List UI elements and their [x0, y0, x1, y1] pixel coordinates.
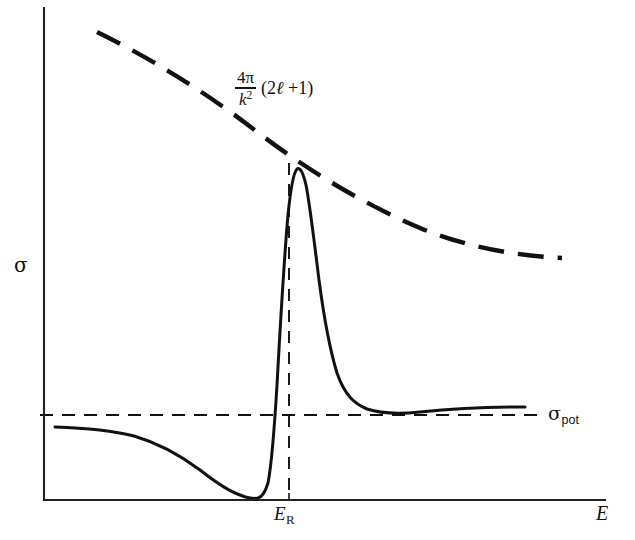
- sigma-pot-base: σ: [548, 402, 561, 424]
- unitarity-denominator: k2: [237, 89, 254, 108]
- resonance-label-base: E: [274, 503, 286, 524]
- sigma-pot-label: σpot: [548, 404, 579, 426]
- sigma-pot-subscript: pot: [561, 413, 578, 427]
- unitarity-fraction: 4π k2: [235, 69, 256, 108]
- unitarity-limit-curve: [97, 32, 562, 258]
- x-tick-label-resonance-energy: ER: [274, 504, 295, 526]
- plot-canvas: [0, 0, 635, 540]
- degeneracy-close: +1): [288, 78, 313, 98]
- unitarity-degeneracy-factor: (2ℓ +1): [261, 79, 313, 97]
- y-axis-label: σ: [14, 255, 28, 275]
- resonance-cross-section-figure: σ E ER σpot 4π k2 (2ℓ +1): [0, 0, 635, 540]
- unitarity-limit-label: 4π k2 (2ℓ +1): [235, 69, 313, 108]
- total-cross-section-curve: [55, 169, 525, 499]
- resonance-label-subscript: R: [286, 512, 295, 527]
- unitarity-denominator-exponent: 2: [246, 89, 252, 101]
- x-axis-label: E: [596, 503, 608, 523]
- unitarity-numerator: 4π: [235, 69, 256, 87]
- orbital-angular-momentum-symbol: ℓ: [276, 77, 284, 98]
- degeneracy-open: (2: [261, 78, 276, 98]
